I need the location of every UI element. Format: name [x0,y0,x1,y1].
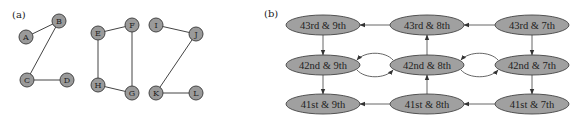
node-label: B [56,17,62,26]
intersection-node: 42nd & 8th [390,55,464,75]
intersection-node: 43rd & 9th [286,15,360,35]
node-label: 41st & 7th [510,99,555,110]
intersection-node: 41st & 9th [286,94,360,114]
edge-n42_7-n42_8 [461,53,498,60]
node-label: 42nd & 8th [403,60,452,71]
panel-b: (b) 43rd & 9th43rd & 8th43rd & 7th42nd &… [264,8,569,114]
panel-a-label: (a) [12,9,26,20]
node-label: F [129,21,135,30]
node-B: B [52,14,66,28]
node-label: A [22,33,29,42]
edge-J-K [156,34,196,93]
node-label: H [95,81,102,90]
node-G: G [125,86,139,100]
panel-b-nodes: 43rd & 9th43rd & 8th43rd & 7th42nd & 9th… [286,15,569,114]
node-label: C [24,76,30,85]
node-label: 41st & 8th [405,99,450,110]
edge-n42_9-n42_8 [357,70,393,77]
edge-B-C [27,21,59,80]
node-label: 41st & 9th [301,99,346,110]
node-label: L [193,89,199,98]
node-C: C [20,73,34,87]
node-label: I [154,21,157,30]
node-label: 42nd & 7th [508,60,557,71]
node-label: 43rd & 7th [509,20,556,31]
node-F: F [125,18,139,32]
node-L: L [189,86,203,100]
node-A: A [19,30,33,44]
diagram-canvas: (a) ABCDEFGHIJKL (b) 43rd & 9th43rd & 8t… [0,0,571,118]
node-D: D [60,73,74,87]
panel-a-edges [26,21,196,93]
node-label: J [193,30,197,39]
edge-n42_8-n42_7 [461,70,498,77]
intersection-node: 42nd & 7th [495,55,569,75]
intersection-node: 43rd & 8th [390,15,464,35]
panel-a: (a) ABCDEFGHIJKL [12,9,203,100]
node-label: K [153,89,160,98]
node-label: E [95,29,101,38]
node-label: G [129,89,135,98]
intersection-node: 41st & 7th [495,94,569,114]
edge-n42_8-n42_9 [357,53,393,60]
panel-b-label: (b) [264,8,278,19]
node-label: D [64,76,70,85]
node-label: 43rd & 9th [300,20,347,31]
node-label: 43rd & 8th [404,20,451,31]
node-J: J [189,27,203,41]
intersection-node: 42nd & 9th [286,55,360,75]
intersection-node: 43rd & 7th [495,15,569,35]
node-K: K [149,86,163,100]
node-I: I [149,18,163,32]
node-H: H [91,78,105,92]
node-label: 42nd & 9th [299,60,348,71]
node-E: E [91,26,105,40]
intersection-node: 41st & 8th [390,94,464,114]
